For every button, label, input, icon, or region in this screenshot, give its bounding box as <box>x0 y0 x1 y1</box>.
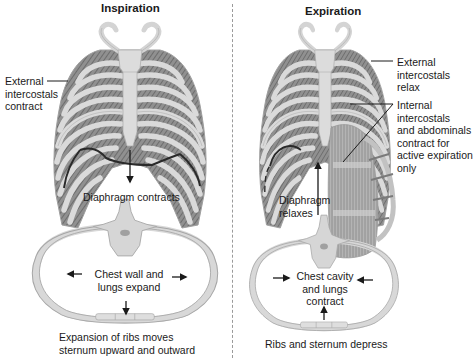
panel-divider <box>232 4 233 358</box>
chest-cavity-contract-label: Chest cavity and lungs contract <box>289 270 361 308</box>
inspiration-title: Inspiration <box>101 2 160 14</box>
inspiration-caption: Expansion of ribs moves sternum upward a… <box>59 331 195 356</box>
chest-wall-expand-label: Chest wall and lungs expand <box>86 268 172 293</box>
diaphragm-contracts-label: Diaphragm contracts <box>83 191 180 204</box>
external-intercostals-contract-label: External intercostals contract <box>5 75 58 113</box>
diagram-artwork <box>0 0 474 361</box>
expiration-caption: Ribs and sternum depress <box>265 338 388 351</box>
internal-intercostals-label: Internal intercostals and abdominals con… <box>397 99 473 174</box>
expiration-title: Expiration <box>305 5 361 17</box>
diaphragm-relaxes-label: Diaphragm relaxes <box>279 194 330 219</box>
external-intercostals-relax-label: External intercostals relax <box>397 56 450 94</box>
